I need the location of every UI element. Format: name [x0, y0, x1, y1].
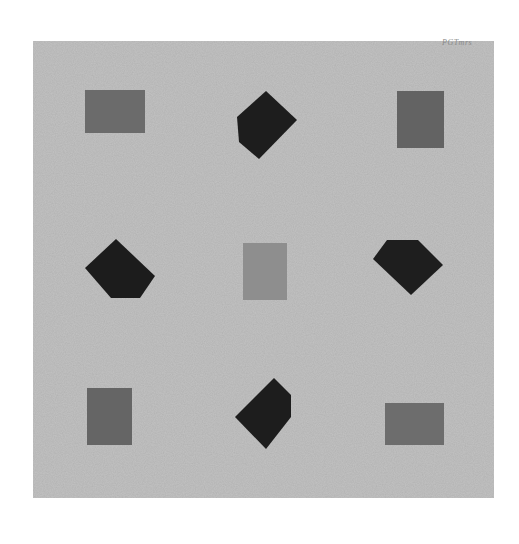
top-right-rectangle [397, 91, 444, 148]
abstract-painting [0, 0, 519, 544]
artist-signature: PGTmrs [442, 38, 472, 47]
center-rectangle [243, 243, 287, 300]
top-left-rectangle [85, 90, 145, 133]
bottom-right-rectangle [385, 403, 444, 445]
bottom-left-rectangle [87, 388, 132, 445]
